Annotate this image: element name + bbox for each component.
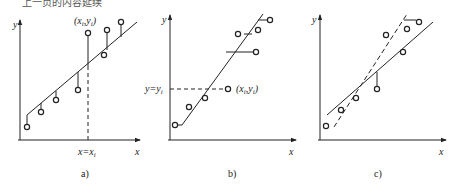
panel-b-y-label: y <box>162 15 166 25</box>
panel-b-point-label: (xi,yi) <box>236 84 258 96</box>
panel-b-x-label: x <box>289 147 293 157</box>
panel-c-x-label: x <box>439 147 443 157</box>
panel-c-solid-regression-line <box>327 22 433 115</box>
panel-c-y-label: y <box>312 15 316 25</box>
panel-c <box>318 14 446 140</box>
panel-c-dashed-regression-line <box>334 14 407 127</box>
panel-b-hline-label: y=yi <box>145 84 163 96</box>
panel-a-caption: a) <box>81 169 89 179</box>
panel-c-data-points <box>323 19 421 128</box>
panel-a-x-label: x <box>135 147 139 157</box>
panel-b <box>168 14 296 140</box>
panel-b-caption: b) <box>228 169 236 179</box>
diagram-canvas <box>0 0 452 195</box>
cropped-header-text: 上一页的内容延续 <box>22 0 102 9</box>
panel-b-data-points <box>172 17 272 127</box>
panel-a-data-points <box>24 19 123 129</box>
regression-residuals-figure: 上一页的内容延续 y x (xi,yi) x=xi a) y x y=yi (x… <box>0 0 452 195</box>
panel-a-point-label: (xi,yi) <box>74 16 96 28</box>
panel-a-y-label: y <box>13 20 17 30</box>
panel-a-vline-label: x=xi <box>78 147 96 159</box>
panel-c-caption: c) <box>374 169 382 179</box>
panel-a <box>18 19 140 140</box>
